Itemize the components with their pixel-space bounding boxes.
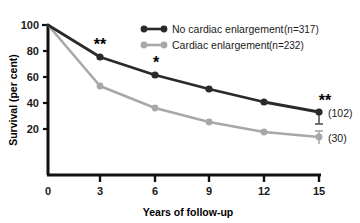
- legend-label-cardiac-enlargement: Cardiac enlargement: [172, 39, 270, 51]
- legend-marker-dark-left: [141, 26, 148, 33]
- legend-marker-dark-right: [161, 26, 168, 33]
- legend-marker-light-left: [141, 42, 148, 49]
- legend-count-no-cardiac-enlargement: (n=317): [284, 24, 319, 35]
- x-tick-label-12: 12: [258, 185, 270, 197]
- legend-entry-cardiac-enlargement[interactable]: Cardiac enlargement (n=232): [141, 39, 304, 51]
- x-tick-labels: 0 3 6 9 12 15: [45, 185, 325, 197]
- endpoint-label-cardiac-enlargement: (30): [328, 132, 347, 144]
- legend-count-cardiac-enlargement: (n=232): [269, 40, 304, 51]
- y-axis-title: Survival (per cent): [7, 54, 19, 146]
- significance-marker-year15: **: [319, 92, 332, 109]
- y-tick-label-100: 100: [21, 19, 39, 31]
- y-tick-label-80: 80: [27, 45, 39, 57]
- significance-marker-year3: **: [94, 36, 107, 53]
- legend-label-no-cardiac-enlargement: No cardiac enlargement: [172, 23, 284, 35]
- legend: No cardiac enlargement (n=317) Cardiac e…: [141, 23, 319, 51]
- chart-canvas: 100 80 60 40 20 0 3 6 9 12 15 Years of f…: [0, 0, 360, 223]
- x-tick-label-15: 15: [313, 185, 325, 197]
- survival-curve-figure: 100 80 60 40 20 0 3 6 9 12 15 Years of f…: [0, 0, 360, 223]
- x-tick-label-6: 6: [152, 185, 158, 197]
- y-tick-label-40: 40: [27, 97, 39, 109]
- legend-marker-light-right: [161, 42, 168, 49]
- x-tick-label-9: 9: [206, 185, 212, 197]
- x-tick-label-3: 3: [97, 185, 103, 197]
- y-tick-label-60: 60: [27, 71, 39, 83]
- x-axis-title: Years of follow-up: [143, 206, 233, 218]
- significance-marker-year6: *: [153, 54, 160, 71]
- endpoint-label-no-cardiac-enlargement: (102): [328, 107, 353, 119]
- y-tick-labels: 100 80 60 40 20: [21, 19, 39, 135]
- legend-entry-no-cardiac-enlargement[interactable]: No cardiac enlargement (n=317): [141, 23, 319, 35]
- x-tick-label-0: 0: [45, 185, 51, 197]
- y-tick-label-20: 20: [27, 123, 39, 135]
